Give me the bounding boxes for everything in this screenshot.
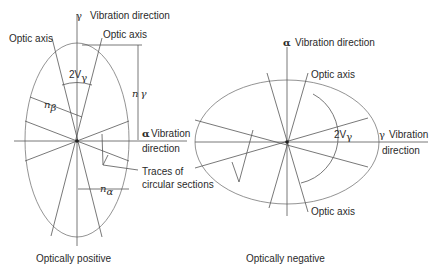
n-alpha-label: nα bbox=[100, 183, 113, 197]
optic-axis-top-label: Optic axis bbox=[311, 69, 355, 80]
alpha-direction-label: direction bbox=[142, 143, 180, 154]
optic-axis-bottom-label: Optic axis bbox=[311, 206, 355, 217]
gamma-label: γ bbox=[379, 129, 385, 140]
traces-arrows bbox=[102, 134, 108, 165]
2v-label: 2Vγ bbox=[334, 129, 352, 142]
traces-label-2: circular sections bbox=[142, 179, 214, 190]
circular-section-trace-1 bbox=[195, 120, 368, 167]
alpha-vibration-label: Vibration direction bbox=[295, 37, 375, 48]
traces-label-1: Traces of bbox=[142, 166, 184, 177]
gamma-label: γ bbox=[76, 10, 82, 21]
origin-dot bbox=[75, 139, 79, 143]
2v-arc bbox=[301, 94, 338, 183]
alpha-label: α bbox=[142, 128, 150, 139]
n-beta-label: nβ bbox=[44, 99, 56, 113]
alpha-label: α bbox=[283, 37, 291, 48]
n-gamma-label: nγ bbox=[132, 88, 146, 99]
indicatrix-diagram: γ Vibration direction Optic axis Optic a… bbox=[0, 0, 438, 267]
2v-label: 2Vγ bbox=[69, 69, 87, 83]
negative-caption: Optically negative bbox=[246, 253, 325, 264]
positive-caption: Optically positive bbox=[36, 253, 111, 264]
gamma-direction-label: direction bbox=[382, 145, 420, 156]
alpha-vibration-label: Vibration bbox=[151, 128, 190, 139]
optic-axis-left-label: Optic axis bbox=[9, 33, 53, 44]
traces-leader bbox=[103, 165, 138, 170]
gamma-vibration-label: Vibration direction bbox=[90, 10, 170, 21]
origin-dot bbox=[285, 140, 289, 144]
optic-axis-right-label: Optic axis bbox=[103, 29, 147, 40]
gamma-vibration-label: Vibration bbox=[389, 129, 428, 140]
circular-section-trace-2 bbox=[195, 118, 368, 168]
optic-axis-line-2 bbox=[269, 73, 308, 208]
